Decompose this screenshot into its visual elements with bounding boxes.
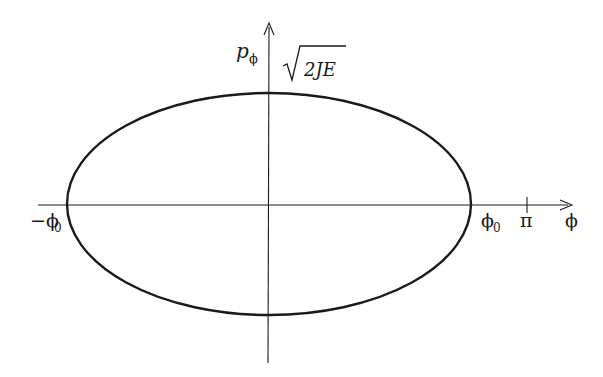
right-intercept-subscript: 0 <box>493 221 501 235</box>
p-phi-axis <box>268 27 269 363</box>
x-axis-label: ϕ <box>565 209 578 231</box>
top-intercept-label: 2JE <box>303 59 336 80</box>
phase-diagram: p ϕ 2JE −ϕ 0 ϕ 0 π ϕ <box>0 0 603 377</box>
y-axis-label: p <box>236 39 249 63</box>
pi-label: π <box>520 209 533 231</box>
left-intercept-subscript: 0 <box>54 221 62 235</box>
y-axis-label-subscript: ϕ <box>249 51 258 66</box>
